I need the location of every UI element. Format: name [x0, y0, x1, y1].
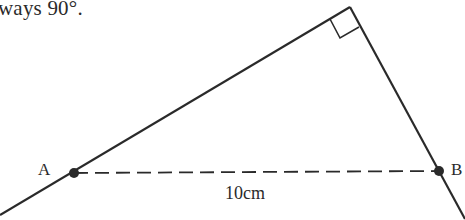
right-angle-marker [330, 19, 359, 38]
label-b: B [451, 160, 462, 180]
point-a [69, 168, 79, 178]
label-a: A [38, 160, 50, 180]
dashed-line-ab [74, 171, 439, 173]
length-label: 10cm [225, 183, 265, 204]
point-b [434, 166, 444, 176]
line-apex-b [350, 7, 465, 219]
line-a-apex [0, 7, 350, 215]
